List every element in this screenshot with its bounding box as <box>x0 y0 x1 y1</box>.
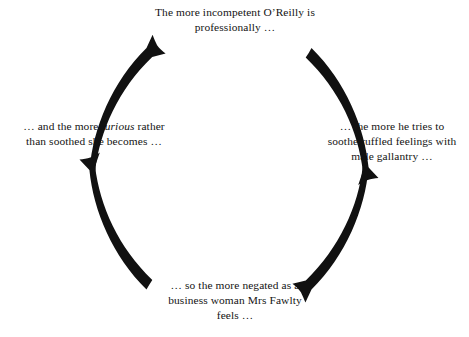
node-left-text: … and the more furious ratherthan soothe… <box>4 119 184 149</box>
node-bottom-text: … so the more negated as a business woma… <box>128 278 342 323</box>
node-right-text: … the more he tries to soothe ruffled fe… <box>316 119 468 164</box>
node-right-line-3: male gallantry … <box>351 150 433 162</box>
node-top-text: The more incompetent O’Reilly is profess… <box>125 5 345 35</box>
node-bottom-line-1: … so the more negated as a <box>171 279 300 291</box>
arc-arrow-bottom-to-left <box>80 153 153 290</box>
node-bottom-line-3: feels … <box>217 309 254 321</box>
arc-arrow-left-to-top <box>90 35 166 171</box>
node-right-line-1: … the more he tries to <box>340 120 445 132</box>
arc-arrow-top-to-right <box>306 48 379 185</box>
node-top-line-2: professionally … <box>195 21 276 33</box>
node-bottom-line-2: business woman Mrs Fawlty <box>168 294 302 306</box>
node-top-line-1: The more incompetent O’Reilly is <box>155 6 315 18</box>
node-right-line-2: soothe ruffled feelings with <box>328 135 457 147</box>
